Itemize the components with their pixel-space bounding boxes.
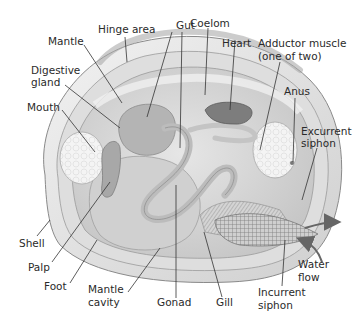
- label-anus: Anus: [284, 85, 310, 97]
- label-mantle-cavity-line1: Mantle: [88, 283, 124, 295]
- label-gill: Gill: [216, 296, 233, 308]
- label-incurrent-siphon-line2: siphon: [258, 299, 293, 311]
- label-mantle-cavity-line2: cavity: [88, 296, 120, 308]
- label-incurrent-siphon-line1: Incurrent: [258, 286, 306, 298]
- label-coelom: Coelom: [190, 17, 230, 29]
- label-adductor-muscle-line2: (one of two): [258, 50, 322, 62]
- label-water-flow-line1: Water: [298, 258, 330, 270]
- label-digestive-gland-line1: Digestive: [31, 64, 80, 76]
- label-shell: Shell: [19, 237, 45, 249]
- clam-anatomy-diagram: Hinge area Mantle Digestive gland Mouth …: [0, 0, 364, 329]
- label-palp: Palp: [28, 261, 50, 273]
- label-water-flow-line2: flow: [298, 271, 320, 283]
- label-adductor-muscle-line1: Adductor muscle: [258, 37, 346, 49]
- label-foot: Foot: [44, 280, 67, 292]
- label-gonad: Gonad: [157, 296, 191, 308]
- label-mantle: Mantle: [48, 35, 84, 47]
- label-heart: Heart: [222, 37, 251, 49]
- label-excurrent-siphon-line1: Excurrent: [301, 125, 352, 137]
- label-mouth: Mouth: [27, 101, 60, 113]
- anterior-adductor-muscle: [60, 132, 104, 184]
- label-hinge-area: Hinge area: [98, 23, 155, 35]
- label-digestive-gland-line2: gland: [31, 76, 60, 88]
- posterior-adductor-muscle: [253, 122, 297, 178]
- label-excurrent-siphon-line2: siphon: [301, 137, 336, 149]
